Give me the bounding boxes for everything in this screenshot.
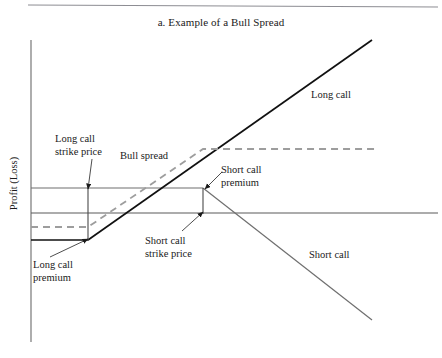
leader-short-call-strike [182,212,203,231]
top-rule [28,5,438,7]
leader-long-call-strike [88,159,92,189]
annotation-short-call-premium: Short call premium [221,164,262,189]
annotation-short-call: Short call [309,249,350,262]
annotation-long-call-premium: Long call premium [33,259,73,284]
long-call-rising-segment [88,40,372,240]
leader-long-call-premium [50,239,88,257]
annotation-short-call-strike-price: Short call strike price [145,235,192,260]
annotation-long-call: Long call [311,89,351,102]
annotation-long-call-strike-price: Long call strike price [55,133,102,158]
leader-short-call-premium [205,172,222,189]
chart-canvas: a. Example of a Bull Spread Profit (Loss… [0,0,442,358]
annotation-bull-spread: Bull spread [120,150,168,163]
